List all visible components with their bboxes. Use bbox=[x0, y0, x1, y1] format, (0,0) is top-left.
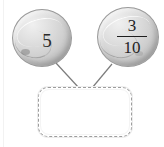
connector-line-left bbox=[56, 63, 79, 88]
fraction-bar bbox=[117, 36, 147, 37]
fraction-numerator: 3 bbox=[128, 17, 137, 35]
fraction-marble[interactable]: 3 10 bbox=[97, 7, 159, 67]
answer-box[interactable] bbox=[38, 87, 132, 137]
connector-line-right bbox=[92, 64, 112, 88]
answer-box-value bbox=[39, 88, 131, 136]
fraction-denominator: 10 bbox=[124, 38, 141, 56]
fraction-value: 3 10 bbox=[98, 8, 158, 66]
worksheet-diagram: 5 3 10 bbox=[0, 0, 164, 147]
whole-number-value: 5 bbox=[13, 10, 71, 66]
whole-number-marble[interactable]: 5 bbox=[12, 9, 72, 67]
